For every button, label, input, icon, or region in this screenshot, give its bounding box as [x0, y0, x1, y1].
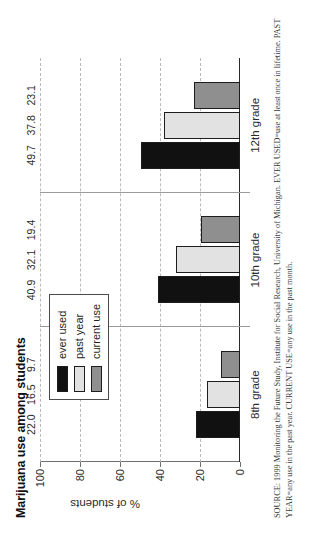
legend-label-past-year: past year	[73, 314, 85, 359]
y-tick-label: 100	[34, 469, 46, 487]
bar-value-label: 32.1	[25, 250, 37, 270]
y-tick-label: 0	[234, 469, 246, 475]
bar-value-label: 40.9	[25, 280, 37, 300]
chart-figure: Marijuana use among students % of studen…	[0, 0, 317, 540]
bar-value-label: 19.4	[25, 220, 37, 240]
y-tick-mark	[80, 462, 81, 467]
y-tick-label: 20	[194, 469, 206, 481]
y-tick-mark	[160, 462, 161, 467]
legend-item-current-use: current use	[90, 304, 102, 392]
bar-item: 23.1	[40, 82, 240, 109]
bar-ever-used[interactable]	[196, 411, 240, 438]
bar-ever-used[interactable]	[158, 277, 240, 304]
x-category-label: 8th grade	[249, 370, 261, 419]
bar-value-label: 23.1	[25, 85, 37, 105]
legend-swatch-past-year	[74, 366, 85, 392]
page-rotation-wrapper: Marijuana use among students % of studen…	[0, 0, 317, 540]
bar-past-year[interactable]	[176, 247, 240, 274]
y-tick-label: 40	[154, 469, 166, 481]
legend-label-ever-used: ever used	[56, 311, 68, 359]
legend-swatch-current-use	[91, 366, 102, 392]
y-tick-mark	[40, 462, 41, 467]
bar-item: 49.7	[40, 142, 240, 169]
legend: ever used past year current use	[49, 294, 109, 400]
y-tick-mark	[200, 462, 201, 467]
bar-value-label: 37.8	[25, 115, 37, 135]
group-separator	[40, 192, 250, 193]
bar-group: 49.737.823.112th grade	[40, 58, 240, 193]
bar-item: 32.1	[40, 247, 240, 274]
y-tick-label: 60	[114, 469, 126, 481]
bar-groups: 22.016.59.78th grade40.932.119.410th gra…	[40, 58, 240, 462]
bar-current-use[interactable]	[201, 217, 240, 244]
bar-current-use[interactable]	[194, 82, 240, 109]
legend-item-ever-used: ever used	[56, 304, 68, 392]
x-category-label: 12th grade	[249, 98, 261, 153]
source-note: SOURCE: 1999 Monitoring the Future Study…	[272, 18, 296, 518]
y-tick-mark	[240, 462, 241, 467]
x-category-label: 10th grade	[249, 233, 261, 288]
y-axis-label: % of students	[70, 498, 140, 510]
bar-item: 19.4	[40, 217, 240, 244]
bar-value-label: 9.7	[25, 357, 37, 372]
bar-past-year[interactable]	[164, 112, 240, 139]
bar-value-label: 22.0	[25, 414, 37, 434]
legend-swatch-ever-used	[57, 366, 68, 392]
bar-value-label: 49.7	[25, 145, 37, 165]
bar-ever-used[interactable]	[141, 142, 240, 169]
bar-value-label: 16.5	[25, 384, 37, 404]
y-tick-mark	[120, 462, 121, 467]
bar-item: 22.0	[40, 411, 240, 438]
legend-label-current-use: current use	[90, 304, 102, 359]
y-tick-label: 80	[74, 469, 86, 481]
plot-area: 020406080100 22.016.59.78th grade40.932.…	[40, 58, 240, 462]
legend-item-past-year: past year	[73, 304, 85, 392]
bar-past-year[interactable]	[207, 381, 240, 408]
bar-current-use[interactable]	[221, 351, 240, 378]
bar-item: 37.8	[40, 112, 240, 139]
